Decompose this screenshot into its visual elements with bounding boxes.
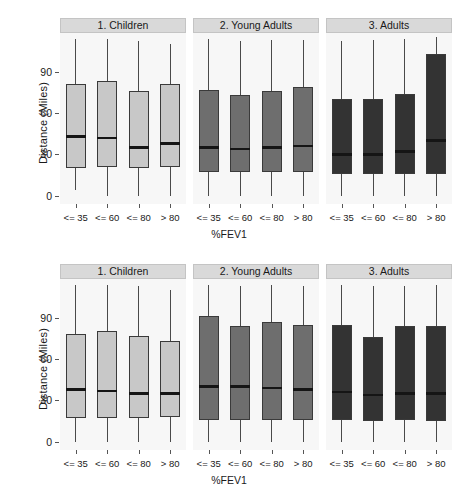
x-tick-label: <= 35 [64, 458, 88, 469]
x-tick-label: <= 60 [228, 458, 252, 469]
boxplot-box [97, 279, 117, 450]
facet-panel: 1. Children<= 35<= 60<= 80> 80 [60, 0, 186, 246]
median-line [363, 153, 383, 155]
plot-area [60, 33, 186, 204]
x-tick-mark [303, 450, 304, 454]
boxplot-box [262, 279, 282, 450]
box-iqr-rect [160, 341, 180, 417]
whisker-upper [436, 37, 437, 54]
whisker-upper [170, 44, 171, 84]
boxplot-box [262, 33, 282, 204]
x-tick-label: <= 60 [95, 458, 119, 469]
x-tick-label: <= 35 [197, 212, 221, 223]
y-tick-mark [55, 113, 59, 114]
box-iqr-rect [66, 334, 86, 418]
whisker-upper [373, 286, 374, 337]
x-tick-labels: <= 35<= 60<= 80> 80 [326, 458, 452, 472]
whisker-lower [75, 168, 76, 190]
facet-strip-label: 3. Adults [326, 18, 452, 33]
median-line [395, 150, 415, 152]
whisker-lower [75, 418, 76, 441]
median-line [129, 392, 149, 394]
x-tick-label: <= 35 [197, 458, 221, 469]
median-line [332, 391, 352, 393]
x-tick-label: > 80 [427, 212, 446, 223]
whisker-upper [303, 40, 304, 87]
whisker-upper [341, 41, 342, 99]
x-tick-mark [170, 204, 171, 208]
x-tick-label: <= 35 [330, 212, 354, 223]
median-line [230, 148, 250, 150]
median-line [262, 387, 282, 389]
x-tick-mark [405, 450, 406, 454]
x-tick-mark [107, 450, 108, 454]
median-line [230, 385, 250, 387]
facet-strip-top: 1. Children<= 35<= 60<= 80> 802. Young A… [60, 0, 452, 246]
y-tick-mark [55, 359, 59, 360]
box-iqr-rect [97, 331, 117, 418]
x-tick-mark [373, 204, 374, 208]
y-tick-mark [55, 400, 59, 401]
whisker-lower [107, 418, 108, 441]
x-tick-label: > 80 [294, 212, 313, 223]
box-iqr-rect [230, 326, 250, 420]
x-tick-label: <= 80 [127, 458, 151, 469]
median-line [66, 135, 86, 137]
x-tick-mark [139, 204, 140, 208]
x-tick-label: > 80 [427, 458, 446, 469]
whisker-lower [138, 418, 139, 441]
median-line [332, 153, 352, 155]
whisker-upper [107, 39, 108, 82]
whisker-upper [404, 39, 405, 94]
chart-row-top: Distance (Miles) 0306090 1. Children<= 3… [0, 0, 458, 246]
whisker-lower [436, 421, 437, 442]
x-tick-label: <= 80 [127, 212, 151, 223]
x-tick-mark [209, 204, 210, 208]
x-tick-mark [139, 450, 140, 454]
whisker-lower [436, 174, 437, 196]
facet-strip-label: 1. Children [60, 18, 186, 33]
median-line [199, 146, 219, 148]
x-axis-title-bottom: %FEV1 [0, 474, 458, 486]
facet-strip-bottom: 1. Children<= 35<= 60<= 80> 802. Young A… [60, 246, 452, 492]
whisker-lower [341, 174, 342, 196]
facet-panel: 3. Adults<= 35<= 60<= 80> 80 [326, 0, 452, 246]
x-tick-mark [240, 204, 241, 208]
y-tick-label: 0 [46, 436, 52, 448]
boxplot-box [230, 33, 250, 204]
whisker-upper [240, 286, 241, 326]
box-iqr-rect [293, 87, 313, 173]
boxplot-box [66, 279, 86, 450]
box-iqr-rect [332, 325, 352, 420]
facet-panel: 3. Adults<= 35<= 60<= 80> 80 [326, 246, 452, 492]
y-tick-label: 90 [40, 66, 52, 78]
boxplot-box [426, 279, 446, 450]
median-line [395, 392, 415, 394]
x-axis-title-top: %FEV1 [0, 228, 458, 240]
whisker-lower [303, 420, 304, 442]
x-tick-label: <= 60 [361, 212, 385, 223]
boxplot-box [199, 279, 219, 450]
y-tick-mark [55, 154, 59, 155]
boxplot-box [363, 33, 383, 204]
whisker-lower [240, 172, 241, 195]
whisker-upper [107, 285, 108, 332]
x-tick-label: > 80 [161, 458, 180, 469]
x-tick-mark [342, 450, 343, 454]
x-tick-mark [405, 204, 406, 208]
boxplot-box [395, 279, 415, 450]
whisker-upper [170, 290, 171, 341]
x-tick-label: <= 60 [95, 212, 119, 223]
x-tick-mark [303, 204, 304, 208]
x-tick-labels: <= 35<= 60<= 80> 80 [193, 212, 319, 226]
box-iqr-rect [293, 325, 313, 420]
boxplot-box [230, 279, 250, 450]
boxplot-box [66, 33, 86, 204]
x-tick-label: <= 80 [260, 458, 284, 469]
whisker-upper [208, 39, 209, 90]
whisker-upper [271, 40, 272, 91]
boxplot-box [97, 33, 117, 204]
median-line [199, 385, 219, 387]
x-tick-mark [272, 450, 273, 454]
boxplot-box [293, 279, 313, 450]
